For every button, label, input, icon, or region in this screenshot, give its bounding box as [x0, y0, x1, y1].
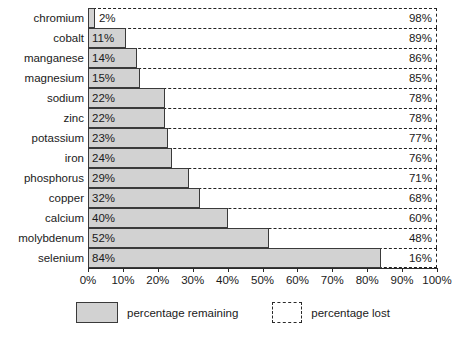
- row-track: 11%89%: [88, 28, 437, 48]
- category-label: phosphorus: [0, 168, 88, 188]
- chart-row: chromium2%98%: [0, 8, 466, 28]
- category-label: sodium: [0, 88, 88, 108]
- chart-legend: percentage remaining percentage lost: [0, 302, 466, 323]
- row-track: 32%68%: [88, 188, 437, 208]
- row-track: 22%78%: [88, 108, 437, 128]
- x-axis-tick-label: 30%: [181, 274, 204, 286]
- chart-row: calcium40%60%: [0, 208, 466, 228]
- lost-segment: [88, 28, 437, 48]
- category-label: zinc: [0, 108, 88, 128]
- row-track: 23%77%: [88, 128, 437, 148]
- category-label: cobalt: [0, 28, 88, 48]
- category-label: magnesium: [0, 68, 88, 88]
- category-label: chromium: [0, 8, 88, 28]
- x-axis-tick: [367, 268, 368, 272]
- row-track: 2%98%: [88, 8, 437, 28]
- chart-row: cobalt11%89%: [0, 28, 466, 48]
- chart-row: sodium22%78%: [0, 88, 466, 108]
- x-axis-tick-label: 0%: [80, 274, 97, 286]
- lost-value-label: 77%: [409, 128, 432, 148]
- x-axis-tick: [437, 268, 438, 272]
- row-track: 14%86%: [88, 48, 437, 68]
- bar-chart: chromium2%98%cobalt11%89%manganese14%86%…: [0, 0, 466, 340]
- x-axis-tick: [263, 268, 264, 272]
- category-label: potassium: [0, 128, 88, 148]
- lost-value-label: 68%: [409, 188, 432, 208]
- chart-row: zinc22%78%: [0, 108, 466, 128]
- x-axis-tick-label: 100%: [422, 274, 451, 286]
- x-axis-tick-label: 90%: [391, 274, 414, 286]
- legend-swatch-dashed-icon: [272, 302, 302, 323]
- row-track: 52%48%: [88, 228, 437, 248]
- lost-value-label: 60%: [409, 208, 432, 228]
- remaining-value-label: 24%: [88, 148, 115, 168]
- row-track: 40%60%: [88, 208, 437, 228]
- category-label: selenium: [0, 248, 88, 268]
- x-axis-tick-label: 50%: [251, 274, 274, 286]
- row-track: 15%85%: [88, 68, 437, 88]
- chart-row: magnesium15%85%: [0, 68, 466, 88]
- lost-value-label: 86%: [409, 48, 432, 68]
- lost-segment: [88, 68, 437, 88]
- category-label: copper: [0, 188, 88, 208]
- remaining-value-label: 29%: [88, 168, 115, 188]
- remaining-bar: [88, 8, 95, 28]
- lost-value-label: 76%: [409, 148, 432, 168]
- legend-item-remaining: percentage remaining: [76, 302, 238, 323]
- remaining-value-label: 23%: [88, 128, 115, 148]
- legend-item-lost: percentage lost: [272, 302, 390, 323]
- remaining-value-label: 11%: [88, 28, 114, 48]
- remaining-value-label: 14%: [88, 48, 115, 68]
- lost-value-label: 71%: [409, 168, 432, 188]
- chart-row: phosphorus29%71%: [0, 168, 466, 188]
- remaining-bar: [88, 228, 269, 248]
- plot-area: chromium2%98%cobalt11%89%manganese14%86%…: [0, 8, 466, 268]
- x-axis-tick-label: 40%: [216, 274, 239, 286]
- lost-value-label: 48%: [409, 228, 432, 248]
- x-axis-tick: [123, 268, 124, 272]
- x-axis-tick: [402, 268, 403, 272]
- category-label: iron: [0, 148, 88, 168]
- x-axis-tick: [228, 268, 229, 272]
- x-axis-tick-label: 60%: [286, 274, 309, 286]
- remaining-value-label: 15%: [88, 68, 115, 88]
- remaining-value-label: 84%: [88, 248, 115, 268]
- category-label: calcium: [0, 208, 88, 228]
- x-axis-tick: [88, 268, 89, 272]
- x-axis-tick: [297, 268, 298, 272]
- remaining-value-label: 2%: [95, 8, 116, 28]
- remaining-value-label: 22%: [88, 88, 115, 108]
- lost-value-label: 78%: [409, 108, 432, 128]
- remaining-value-label: 22%: [88, 108, 115, 128]
- lost-segment: [88, 8, 437, 28]
- x-axis-tick-label: 10%: [111, 274, 134, 286]
- legend-label-lost: percentage lost: [311, 307, 390, 319]
- lost-value-label: 98%: [409, 8, 432, 28]
- chart-row: manganese14%86%: [0, 48, 466, 68]
- x-axis-tick-label: 80%: [356, 274, 379, 286]
- remaining-value-label: 32%: [88, 188, 115, 208]
- lost-value-label: 78%: [409, 88, 432, 108]
- remaining-bar: [88, 248, 381, 268]
- remaining-value-label: 40%: [88, 208, 115, 228]
- row-track: 29%71%: [88, 168, 437, 188]
- x-axis-tick-label: 20%: [146, 274, 169, 286]
- chart-row: copper32%68%: [0, 188, 466, 208]
- x-axis-tick: [158, 268, 159, 272]
- x-axis-tick-label: 70%: [321, 274, 344, 286]
- lost-segment: [88, 48, 437, 68]
- x-axis-tick: [193, 268, 194, 272]
- chart-row: potassium23%77%: [0, 128, 466, 148]
- category-label: molybdenum: [0, 228, 88, 248]
- chart-row: selenium84%16%: [0, 248, 466, 268]
- lost-value-label: 85%: [409, 68, 432, 88]
- row-track: 24%76%: [88, 148, 437, 168]
- chart-row: molybdenum52%48%: [0, 228, 466, 248]
- category-label: manganese: [0, 48, 88, 68]
- row-track: 22%78%: [88, 88, 437, 108]
- lost-value-label: 16%: [409, 248, 432, 268]
- legend-swatch-solid-icon: [76, 302, 118, 323]
- x-axis-tick: [332, 268, 333, 272]
- legend-label-remaining: percentage remaining: [127, 307, 238, 319]
- x-axis: 0%10%20%30%40%50%60%70%80%90%100%: [88, 268, 437, 294]
